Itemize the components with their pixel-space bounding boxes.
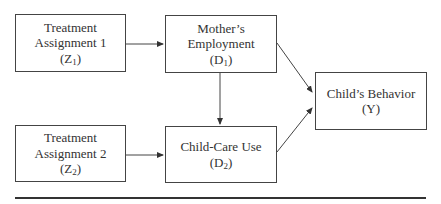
node-symbol: (Z1): [60, 51, 81, 67]
node-symbol: (Y): [362, 101, 380, 117]
node-label-line2: Employment: [187, 36, 254, 52]
node-label-line1: Mother’s: [197, 21, 244, 37]
node-symbol: (Z2): [60, 161, 81, 177]
node-label-line1: Treatment: [44, 130, 97, 146]
node-label-line2: Assignment 1: [35, 35, 107, 51]
node-symbol: (D2): [210, 155, 233, 171]
node-child-care-use: Child-Care Use (D2): [165, 126, 277, 183]
node-mothers-employment: Mother’s Employment (D1): [165, 15, 277, 73]
node-label-line1: Child-Care Use: [180, 139, 261, 155]
node-label-line2: Assignment 2: [35, 146, 107, 162]
node-symbol: (D1): [210, 52, 233, 68]
node-treatment-assignment-1: Treatment Assignment 1 (Z1): [15, 14, 126, 72]
bottom-rule: [15, 197, 426, 199]
node-childs-behavior: Child’s Behavior (Y): [315, 72, 427, 130]
node-label-line1: Treatment: [44, 20, 97, 36]
edge-d1-y: [277, 43, 312, 92]
node-label-line1: Child’s Behavior: [327, 86, 415, 102]
node-treatment-assignment-2: Treatment Assignment 2 (Z2): [15, 125, 126, 182]
edge-d2-y: [277, 108, 312, 152]
